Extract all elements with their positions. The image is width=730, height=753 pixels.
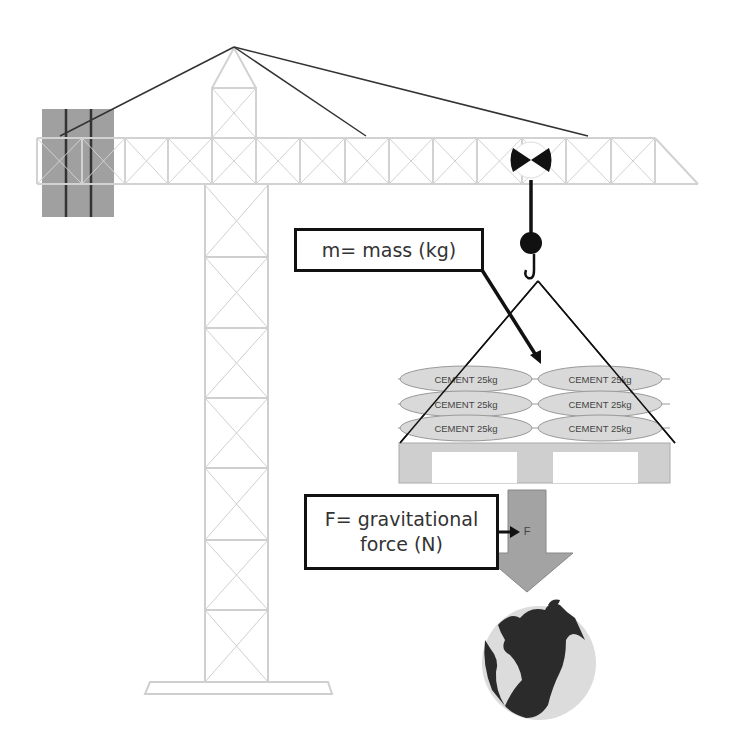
bag-label: CEMENT 25kg bbox=[568, 423, 631, 434]
bag-label: CEMENT 25kg bbox=[434, 399, 497, 410]
bag-label: CEMENT 25kg bbox=[434, 374, 497, 385]
counterweight bbox=[42, 109, 114, 217]
cement-bag-stack: CEMENT 25kg CEMENT 25kg CEMENT 25kg CEME… bbox=[398, 366, 670, 441]
hook-icon bbox=[525, 254, 534, 278]
crane-jib bbox=[37, 138, 698, 184]
force-label: F= gravitational force (N) bbox=[304, 494, 499, 570]
hook-block bbox=[520, 232, 542, 254]
tower-top bbox=[212, 48, 256, 138]
pendant-cables bbox=[60, 47, 588, 136]
bag-label: CEMENT 25kg bbox=[568, 399, 631, 410]
force-arrow-label: F bbox=[524, 525, 531, 537]
earth-icon bbox=[482, 600, 596, 720]
mass-pointer-arrow bbox=[482, 270, 541, 364]
mass-label: m= mass (kg) bbox=[294, 228, 484, 272]
force-label-line1: F= gravitational bbox=[325, 507, 478, 532]
crane-base bbox=[145, 682, 332, 694]
pallet bbox=[399, 443, 670, 483]
mass-label-text: m= mass (kg) bbox=[322, 239, 456, 261]
tower-mast bbox=[205, 185, 268, 682]
bag-label: CEMENT 25kg bbox=[434, 423, 497, 434]
force-label-line2: force (N) bbox=[325, 532, 478, 557]
trolley-icon bbox=[511, 142, 552, 178]
crane-diagram: CEMENT 25kg CEMENT 25kg CEMENT 25kg CEME… bbox=[0, 0, 730, 753]
